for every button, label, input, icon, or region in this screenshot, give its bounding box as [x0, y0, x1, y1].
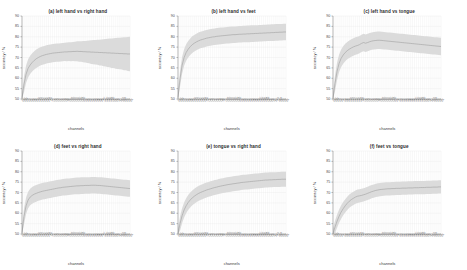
plot-area: [156, 135, 312, 270]
panel-a: (a) left hand vs right handaccuracy / %c…: [0, 0, 156, 135]
plot-area: [156, 0, 312, 135]
figure-panel-grid: (a) left hand vs right handaccuracy / %c…: [0, 0, 467, 270]
panel-d: (d) feet vs right handaccuracy / %channe…: [0, 135, 156, 270]
plot-area: [311, 0, 467, 135]
panel-f: (f) feet vs tongueaccuracy / %channels50…: [311, 135, 467, 270]
panel-b: (b) left hand vs feetaccuracy / %channel…: [156, 0, 312, 135]
panel-e: (e) tongue vs right handaccuracy / %chan…: [156, 135, 312, 270]
plot-area: [311, 135, 467, 270]
plot-area: [0, 135, 156, 270]
panel-c: (c) left hand vs tongueaccuracy / %chann…: [311, 0, 467, 135]
plot-area: [0, 0, 156, 135]
